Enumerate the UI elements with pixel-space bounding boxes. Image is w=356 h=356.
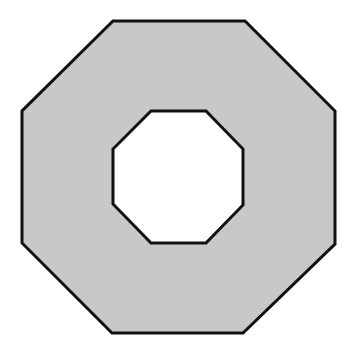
octagonal-ring-diagram — [0, 0, 356, 356]
inner-octagon-hole — [113, 111, 243, 243]
